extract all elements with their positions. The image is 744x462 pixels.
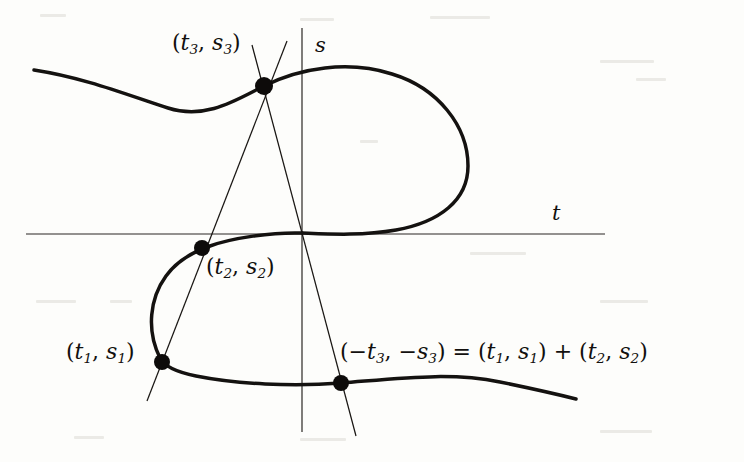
s-symbol: s bbox=[518, 339, 529, 364]
minus-sign: − bbox=[349, 339, 367, 364]
s-axis-label-text: s bbox=[315, 33, 326, 57]
comma: , bbox=[198, 30, 212, 55]
s-subscript: 2 bbox=[257, 265, 266, 281]
comma: , bbox=[232, 254, 246, 279]
t-axis-label: t bbox=[552, 203, 560, 224]
point-label-p2: (t2, s2) bbox=[206, 256, 275, 280]
t-subscript: 1 bbox=[495, 350, 504, 366]
t-symbol: t bbox=[588, 339, 597, 364]
point-label-p1: (t1, s1) bbox=[66, 341, 135, 365]
comma: , bbox=[605, 339, 619, 364]
paren-open: ( bbox=[66, 339, 75, 364]
s-symbol: s bbox=[106, 339, 117, 364]
point-p3-dot bbox=[255, 77, 273, 95]
t-subscript: 2 bbox=[597, 350, 606, 366]
paren-close: ) bbox=[266, 254, 275, 279]
paren-close: ) bbox=[639, 339, 648, 364]
paren-close: ) bbox=[437, 339, 446, 364]
plus-sign: + bbox=[547, 339, 579, 364]
group-law-equation: (−t3, −s3) = (t1, s1) + (t2, s2) bbox=[340, 341, 648, 365]
s-symbol: s bbox=[246, 254, 257, 279]
point-p1-dot bbox=[154, 354, 170, 370]
elliptic-curve-figure: s t (t3, s3) (t2, s2) (t1, s1) (−t3, −s3… bbox=[0, 0, 744, 462]
t-axis-label-text: t bbox=[552, 201, 560, 225]
paren-close: ) bbox=[126, 339, 135, 364]
s-subscript: 3 bbox=[428, 350, 437, 366]
comma: , bbox=[92, 339, 106, 364]
curve-canvas bbox=[0, 0, 744, 462]
point-label-p3: (t3, s3) bbox=[172, 32, 241, 56]
paren-close: ) bbox=[232, 30, 241, 55]
comma: , bbox=[385, 339, 399, 364]
s-symbol: s bbox=[619, 339, 630, 364]
point-p4-dot bbox=[333, 375, 349, 391]
s-subscript: 1 bbox=[117, 350, 126, 366]
secant-line-p1-p2-p3 bbox=[147, 41, 287, 401]
comma: , bbox=[504, 339, 518, 364]
s-subscript: 1 bbox=[529, 350, 538, 366]
s-symbol: s bbox=[417, 339, 428, 364]
paren-open: ( bbox=[172, 30, 181, 55]
s-symbol: s bbox=[212, 30, 223, 55]
s-subscript: 2 bbox=[630, 350, 639, 366]
t-subscript: 3 bbox=[376, 350, 385, 366]
s-axis-label: s bbox=[315, 35, 326, 56]
s-subscript: 3 bbox=[223, 41, 232, 57]
minus-sign: − bbox=[399, 339, 417, 364]
paren-open: ( bbox=[340, 339, 349, 364]
t-subscript: 2 bbox=[223, 265, 232, 281]
equals-sign: = bbox=[446, 339, 478, 364]
paren-open: ( bbox=[206, 254, 215, 279]
curve-upper-branch bbox=[34, 67, 468, 234]
t-symbol: t bbox=[367, 339, 376, 364]
paren-open: ( bbox=[478, 339, 487, 364]
t-subscript: 3 bbox=[189, 41, 198, 57]
t-subscript: 1 bbox=[83, 350, 92, 366]
paren-open: ( bbox=[579, 339, 588, 364]
paren-close: ) bbox=[538, 339, 547, 364]
